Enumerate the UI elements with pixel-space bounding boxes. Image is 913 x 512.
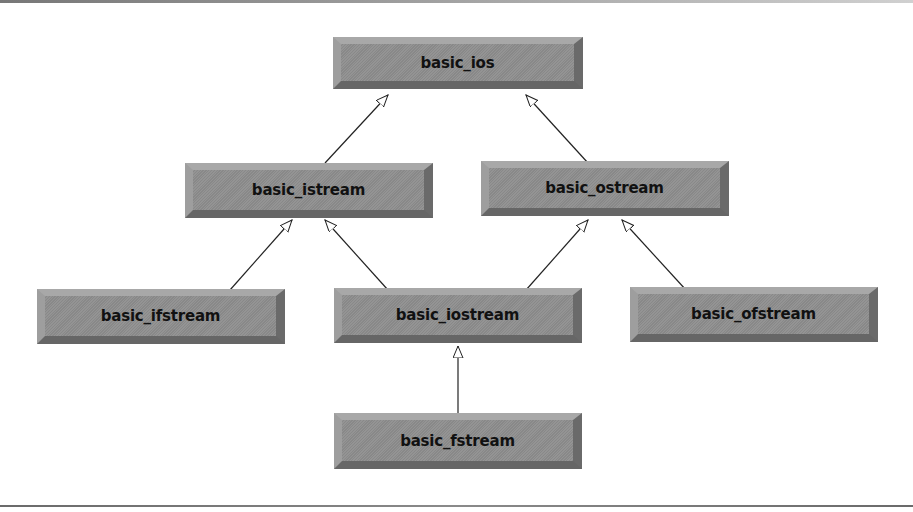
connector-ofstream-to-ostream <box>622 220 686 290</box>
class-label: basic_iostream <box>396 306 519 324</box>
class-label: basic_fstream <box>400 432 515 450</box>
class-box-basic-ios: basic_ios <box>333 37 583 89</box>
class-label: basic_ios <box>421 54 495 72</box>
class-label: basic_istream <box>252 181 365 199</box>
connector-iostream-to-istream <box>325 220 388 290</box>
class-box-basic-ostream: basic_ostream <box>481 161 729 216</box>
class-label: basic_ifstream <box>101 307 221 325</box>
class-box-basic-istream: basic_istream <box>185 163 433 218</box>
class-box-basic-fstream: basic_fstream <box>334 413 582 469</box>
bottom-rule <box>0 505 913 507</box>
connector-ifstream-to-istream <box>230 220 292 290</box>
connector-iostream-to-ostream <box>526 220 588 290</box>
class-label: basic_ostream <box>545 179 663 197</box>
class-label: basic_ofstream <box>691 305 816 323</box>
top-rule <box>0 0 913 3</box>
class-box-basic-ifstream: basic_ifstream <box>37 289 285 344</box>
connector-istream-to-ios <box>325 95 388 163</box>
class-box-basic-iostream: basic_iostream <box>334 288 582 343</box>
connector-ostream-to-ios <box>526 95 588 163</box>
class-box-basic-ofstream: basic_ofstream <box>630 287 878 342</box>
